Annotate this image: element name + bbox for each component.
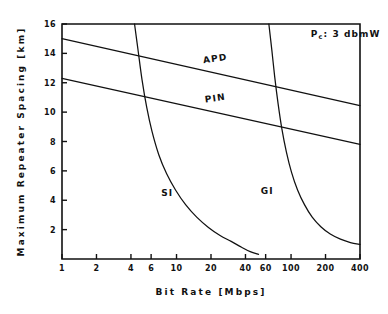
x-tick-label-4: 4 [128, 264, 134, 273]
axis-title-group: Bit Rate [Mbps]Maximum Repeater Spacing … [16, 27, 266, 297]
y-axis-tick-labels: 246810121416 [44, 20, 56, 235]
annotation-group: Pc: 3 dbmW [311, 29, 381, 41]
curve-label-pin: PIN [204, 92, 226, 105]
curve-pin [62, 78, 360, 144]
chart-figure: 124610204060100200400 246810121416 APDPI… [0, 0, 388, 314]
annotation-symbol: P [311, 29, 319, 39]
x-tick-label-20: 20 [205, 264, 217, 273]
y-tick-label-6: 6 [50, 167, 56, 176]
curve-label-gi: GI [261, 186, 274, 196]
x-tick-label-60: 60 [260, 264, 272, 273]
x-tick-label-200: 200 [317, 264, 335, 273]
curve-label-apd: APD [202, 52, 228, 65]
y-tick-label-14: 14 [44, 49, 56, 58]
y-tick-label-10: 10 [44, 108, 56, 117]
x-axis-title: Bit Rate [Mbps] [156, 287, 267, 297]
curve-label-si: SI [161, 188, 173, 198]
y-tick-label-8: 8 [50, 138, 56, 147]
y-tick-label-12: 12 [44, 79, 56, 88]
y-tick-label-16: 16 [44, 20, 56, 29]
y-axis-title: Maximum Repeater Spacing [km] [16, 27, 26, 257]
x-tick-label-2: 2 [93, 264, 99, 273]
x-axis-tick-labels: 124610204060100200400 [59, 264, 369, 273]
x-tick-label-100: 100 [282, 264, 300, 273]
chart-canvas: 124610204060100200400 246810121416 APDPI… [0, 0, 388, 314]
x-tick-label-40: 40 [240, 264, 252, 273]
y-tick-label-4: 4 [50, 196, 56, 205]
power-annotation: Pc: 3 dbmW [311, 29, 381, 41]
y-tick-label-2: 2 [50, 226, 56, 235]
x-tick-label-10: 10 [171, 264, 183, 273]
annotation-value: : 3 dbmW [323, 29, 380, 39]
x-tick-label-6: 6 [148, 264, 154, 273]
x-tick-label-400: 400 [351, 264, 369, 273]
x-tick-label-1: 1 [59, 264, 65, 273]
